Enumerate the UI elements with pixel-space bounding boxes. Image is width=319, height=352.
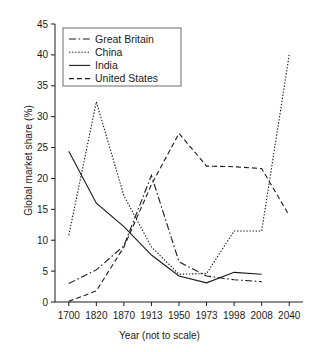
chart-canvas: 0510152025303540451700182018701913195019… [0,0,319,352]
x-tick-label: 1973 [195,310,218,321]
series-line-india [69,151,262,283]
y-tick-label: 5 [42,266,48,277]
x-tick-label: 2008 [251,310,274,321]
y-axis-title: Global market share (%) [23,81,34,241]
y-tick-label: 15 [37,204,49,215]
y-tick-label: 10 [37,235,49,246]
y-tick-label: 45 [37,19,49,30]
x-axis-title: Year (not to scale) [0,330,319,341]
y-tick-label: 40 [37,49,49,60]
x-tick-label: 2040 [278,310,301,321]
series-line-china [69,55,289,274]
y-tick-label: 25 [37,142,49,153]
y-tick-label: 30 [37,111,49,122]
x-tick-label: 1913 [140,310,163,321]
x-tick-label: 1998 [223,310,246,321]
x-tick-label: 1870 [113,310,136,321]
legend-label-united-states: United States [95,72,158,84]
x-tick-label: 1950 [168,310,191,321]
y-tick-label: 20 [37,173,49,184]
plot-area: 0510152025303540451700182018701913195019… [0,0,319,352]
y-tick-label: 0 [42,297,48,308]
legend-label-china: China [95,46,123,58]
x-tick-label: 1700 [58,310,81,321]
legend-label-great-britain: Great Britain [95,33,154,45]
series-line-great-britain [69,175,262,283]
line-chart: 0510152025303540451700182018701913195019… [0,0,319,352]
y-tick-label: 35 [37,80,49,91]
legend-label-india: India [95,59,118,71]
x-tick-label: 1820 [85,310,108,321]
